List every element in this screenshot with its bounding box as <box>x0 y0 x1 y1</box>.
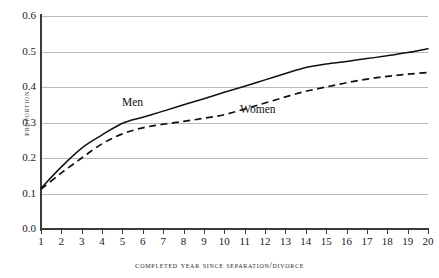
x-tick <box>143 229 144 234</box>
x-tick <box>82 229 83 234</box>
x-tick <box>347 229 348 234</box>
x-tick <box>204 229 205 234</box>
x-tick <box>326 229 327 234</box>
chart-container: Proportion 0.6 0.5 0.4 0.3 0.2 0.1 0.0 M… <box>0 0 439 278</box>
x-axis-title: Completed Year Since Separation/Divorce <box>0 259 439 270</box>
series-label-women: Women <box>240 103 275 115</box>
x-tick <box>387 229 388 234</box>
x-tick <box>265 229 266 234</box>
x-tick <box>408 229 409 234</box>
x-tick <box>224 229 225 234</box>
x-tick <box>163 229 164 234</box>
series-label-men: Men <box>122 96 143 108</box>
x-tick <box>41 229 42 234</box>
x-tick <box>306 229 307 234</box>
x-tick-label: 20 <box>416 236 439 247</box>
x-tick <box>102 229 103 234</box>
x-tick <box>285 229 286 234</box>
x-tick <box>245 229 246 234</box>
series-line-men <box>41 49 428 189</box>
x-tick <box>122 229 123 234</box>
x-tick <box>184 229 185 234</box>
x-tick <box>61 229 62 234</box>
x-tick <box>367 229 368 234</box>
x-tick <box>428 229 429 234</box>
